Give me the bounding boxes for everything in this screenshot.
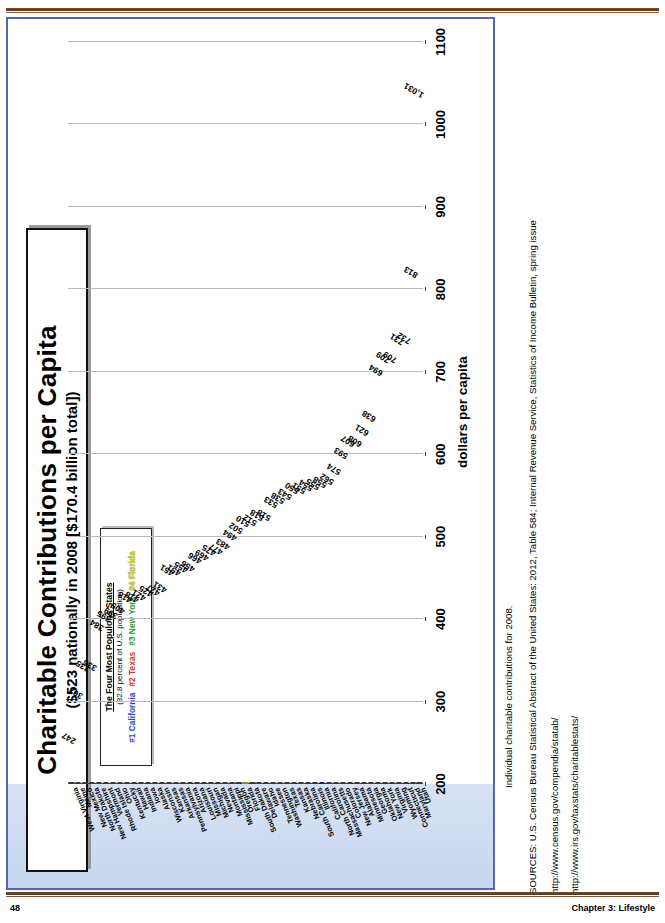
x-axis-tick-label: 500 xyxy=(433,514,448,560)
bar-fill-mississippi xyxy=(229,782,235,784)
page-footer-rule-thin xyxy=(6,896,659,897)
chart-bar xyxy=(110,620,116,784)
chart-bar xyxy=(354,448,360,784)
bar-fill-delaware xyxy=(256,782,262,784)
source-citation: SOURCES: U.S. Census Bureau Statistical … xyxy=(527,220,538,894)
bar-fill-new-mexico xyxy=(82,782,88,784)
bar-fill-alabama xyxy=(354,782,360,784)
chart-bar xyxy=(166,577,172,784)
bar-fill-georgia xyxy=(368,782,374,784)
chart-bar xyxy=(187,573,193,784)
bar-fill-arkansas xyxy=(173,782,179,784)
chart-bar xyxy=(173,577,179,784)
chart-bar xyxy=(194,565,200,784)
chart-bar xyxy=(249,527,255,784)
bar-fill-virginia xyxy=(389,782,395,784)
source-note: Individual charitable contributions for … xyxy=(503,606,514,788)
x-axis-tick xyxy=(425,452,426,456)
x-axis-tick xyxy=(425,370,426,374)
page-header-rule xyxy=(6,8,659,11)
chart-bar xyxy=(326,486,332,784)
x-axis-tick-label: 300 xyxy=(433,679,448,725)
chart-bar xyxy=(416,99,422,784)
chart-bar xyxy=(256,522,262,784)
chart-bar xyxy=(131,604,137,784)
bar-fill-north-carolina xyxy=(326,782,332,784)
gridline xyxy=(68,206,423,207)
bar-fill-south-dakota xyxy=(249,782,255,784)
bar-fill-oklahoma xyxy=(375,782,381,784)
chart-bar xyxy=(229,542,235,784)
bar-fill-connecticut xyxy=(403,782,409,784)
x-axis-tick-label: 1100 xyxy=(433,19,448,65)
chart-bar xyxy=(201,562,207,784)
bar-fill-colorado xyxy=(340,782,346,784)
chart-bar xyxy=(298,495,304,784)
page-number: 48 xyxy=(10,903,20,913)
chart-bar xyxy=(361,437,367,784)
chart-bar xyxy=(368,423,374,784)
chart-bar xyxy=(347,448,353,784)
bar-fill-illinois xyxy=(312,782,318,784)
chart-bar xyxy=(403,345,409,784)
bar-fill-texas xyxy=(284,782,290,784)
chart-bar xyxy=(235,535,241,784)
bar-fill-missouri xyxy=(201,782,207,784)
bar-fill-nebraska xyxy=(298,782,304,784)
chart-bar xyxy=(75,700,81,784)
bar-fill-nevada xyxy=(215,782,221,784)
bar-fill-rhode-island xyxy=(110,782,116,784)
chart-bar xyxy=(68,745,74,784)
x-axis-tick xyxy=(425,535,426,539)
chart-bar xyxy=(333,476,339,784)
bar-fill-maine xyxy=(75,782,81,784)
bar-fill-new-jersey xyxy=(347,782,353,784)
chart-bar xyxy=(270,509,276,784)
source-url-irs[interactable]: http://www.irs.gov/taxstats/charitablest… xyxy=(569,716,580,894)
bar-fill-alaska xyxy=(152,782,158,784)
chart-bar xyxy=(396,346,402,784)
x-axis-tick-label: 900 xyxy=(433,184,448,230)
chart-bar xyxy=(263,522,269,784)
x-axis-tick-label: 1000 xyxy=(433,101,448,147)
bar-fill-iowa xyxy=(145,782,151,784)
rotated-chart-canvas: Charitable Contributions per Capita ($52… xyxy=(8,19,493,888)
gridline xyxy=(68,288,423,289)
bar-fill-florida xyxy=(242,782,248,784)
bar-fill-montana xyxy=(222,782,228,784)
chart-bar xyxy=(96,632,102,784)
bar-fill-vermont xyxy=(103,782,109,784)
bar-fill-north-dakota xyxy=(89,782,95,784)
bar-fill-south-carolina xyxy=(305,782,311,784)
bar-fill-kentucky xyxy=(124,782,130,784)
x-axis-tick xyxy=(425,122,426,126)
chart-bar xyxy=(312,491,318,784)
bar-fill-pennsylvania xyxy=(180,782,186,784)
chart-bar xyxy=(389,364,395,784)
page-title: Charitable Contributions per Capita xyxy=(34,325,61,775)
x-axis-title: dollars per capita xyxy=(455,356,470,468)
chart-bar xyxy=(284,501,290,784)
bar-fill-minnesota xyxy=(361,782,367,784)
chart-bar xyxy=(117,615,123,784)
source-url-census[interactable]: http://www.census.gov/compendia/statab/ xyxy=(549,717,560,894)
x-axis-tick-label: 200 xyxy=(433,761,448,807)
chart-bar xyxy=(82,673,88,784)
bar-fill-indiana xyxy=(138,782,144,784)
chart-bar xyxy=(382,364,388,784)
chart-bar xyxy=(410,279,416,784)
chart-bar xyxy=(291,495,297,784)
x-axis-tick-label: 800 xyxy=(433,266,448,312)
chart-bar xyxy=(277,505,283,784)
bar-fill-louisiana xyxy=(194,782,200,784)
chart-bar xyxy=(305,492,311,784)
chapter-label: Chapter 3: Lifestyle xyxy=(571,903,655,913)
chart-bar xyxy=(215,556,221,784)
bar-fill-michigan xyxy=(208,782,214,784)
chart-bar xyxy=(242,528,248,784)
bar-fill-new-hampshire xyxy=(96,782,102,784)
bar-fill-tennessee xyxy=(270,782,276,784)
x-axis-tick-label: 700 xyxy=(433,349,448,395)
bar-fill-arizona xyxy=(187,782,193,784)
chart-bar xyxy=(319,489,325,784)
